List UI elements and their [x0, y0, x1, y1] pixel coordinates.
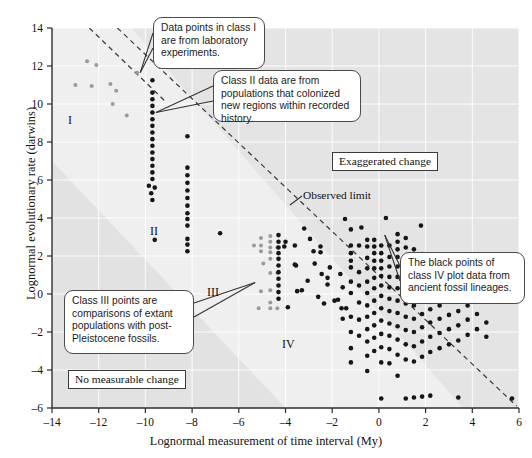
class-marker-i: I [68, 113, 72, 128]
x-tick-label: –2 [325, 416, 338, 428]
x-tick-label: 6 [516, 416, 522, 428]
box-no-measurable-change: No measurable change [68, 370, 186, 389]
x-tick-label: –14 [42, 416, 61, 428]
y-tick-label: –4 [31, 364, 44, 376]
x-tick-label: –12 [89, 416, 108, 428]
x-tick-label: –6 [232, 416, 245, 428]
class-marker-iii: III [207, 285, 219, 300]
x-tick-label: –4 [279, 416, 292, 428]
callout-class-ii: Class II data are from populations that … [213, 70, 361, 122]
y-tick-label: –6 [31, 402, 44, 414]
box-exaggerated-change: Exaggerated change [332, 152, 438, 171]
y-axis-title: Lognormal evolutionary rate (darwins) [24, 94, 39, 314]
x-tick-label: 4 [469, 416, 475, 428]
y-tick-label: 12 [32, 60, 44, 72]
y-tick-label: –2 [31, 326, 44, 338]
x-tick-label: –8 [185, 416, 198, 428]
class-marker-iv: IV [282, 337, 295, 352]
x-tick-label: 2 [423, 416, 429, 428]
x-tick-label: 0 [376, 416, 382, 428]
label-observed-limit: Observed limit [303, 189, 371, 201]
callout-class-iv: The black points of class IV plot data f… [400, 252, 525, 304]
x-axis-title: Lognormal measurement of time interval (… [0, 434, 532, 449]
x-tick-label: –10 [136, 416, 155, 428]
scatter-plot-svg: –14–12–10–8–6–4–20246–6–4–202468101214 [0, 0, 532, 458]
chart-figure: –14–12–10–8–6–4–20246–6–4–202468101214 D… [0, 0, 532, 458]
class-marker-ii: II [150, 224, 158, 239]
y-tick-label: 14 [32, 22, 44, 34]
callout-class-iii: Class III points are comparisons of exta… [64, 290, 194, 354]
callout-class-i: Data points in class I are from laborato… [153, 17, 265, 69]
